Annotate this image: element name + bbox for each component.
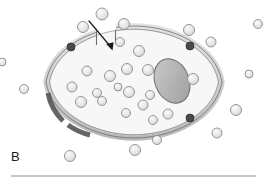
particle xyxy=(76,97,87,108)
particle xyxy=(245,70,253,78)
particle xyxy=(122,64,133,75)
particle xyxy=(188,74,199,85)
particle xyxy=(119,19,130,30)
particle xyxy=(82,66,92,76)
particle xyxy=(65,151,76,162)
particle xyxy=(134,46,145,57)
particle xyxy=(122,109,131,118)
membrane-node xyxy=(186,114,194,122)
particle xyxy=(96,8,108,20)
particle xyxy=(231,105,242,116)
particle xyxy=(114,83,122,91)
particle xyxy=(206,37,216,47)
particle xyxy=(163,109,173,119)
particle xyxy=(105,71,116,82)
panel-label: B xyxy=(11,150,20,163)
particle xyxy=(0,58,6,66)
particle xyxy=(146,91,155,100)
particle xyxy=(153,136,162,145)
particle xyxy=(20,85,29,94)
particle xyxy=(98,97,107,106)
particle xyxy=(78,22,89,33)
figure-panel-b: B xyxy=(0,0,264,184)
particle xyxy=(254,20,263,29)
particle xyxy=(138,100,148,110)
membrane-node xyxy=(67,43,75,51)
particle xyxy=(149,116,158,125)
particle xyxy=(124,87,135,98)
particle xyxy=(116,38,125,47)
particle xyxy=(67,82,77,92)
membrane-node xyxy=(186,42,194,50)
particle xyxy=(143,65,154,76)
cell-diagram xyxy=(0,0,264,184)
particle xyxy=(184,25,195,36)
particle xyxy=(212,128,222,138)
particle xyxy=(130,145,141,156)
particle xyxy=(93,89,102,98)
